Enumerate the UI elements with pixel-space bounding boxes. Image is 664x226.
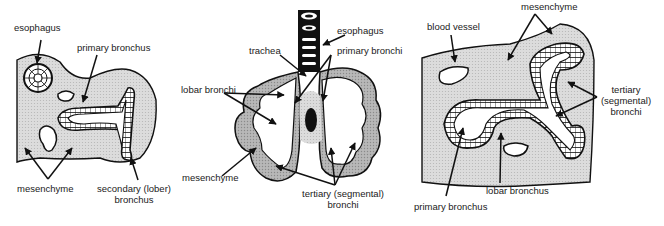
label-secondary-bronchus-line1: secondary (lober) — [96, 183, 172, 194]
label-tertiary-bronchi-line1: tertiary — [598, 84, 654, 95]
label-tertiary-bronchi-line2: bronchi — [300, 199, 386, 210]
label-trachea: trachea — [249, 45, 281, 56]
label-esophagus: esophagus — [337, 25, 383, 36]
label-tertiary-bronchi-line3: bronchi — [598, 106, 654, 117]
esophagus-icon — [24, 64, 52, 92]
label-primary-bronchus: primary bronchus — [414, 201, 487, 212]
blood-vessel-icon — [58, 91, 74, 101]
label-primary-bronchus: primary bronchus — [77, 42, 150, 53]
label-mesenchyme: mesenchyme — [521, 1, 578, 12]
label-mesenchyme: mesenchyme — [182, 172, 239, 183]
label-lobar-bronchi: lobar bronchi — [181, 84, 236, 95]
label-tertiary-bronchi: tertiary (segmental) bronchi — [598, 84, 654, 117]
label-tertiary-bronchi-line1: tertiary (segmental) — [300, 188, 386, 199]
right-panel-drawing — [422, 14, 597, 196]
lung-development-diagram: esophagus primary bronchus mesenchyme se… — [0, 0, 664, 226]
label-mesenchyme: mesenchyme — [17, 183, 74, 194]
label-tertiary-bronchi: tertiary (segmental) bronchi — [300, 188, 386, 210]
label-secondary-bronchus-line2: bronchus — [96, 194, 172, 205]
label-lobar-bronchus: lobar bronchus — [486, 185, 549, 196]
trachea-icon — [298, 10, 320, 72]
label-esophagus: esophagus — [14, 22, 60, 33]
label-primary-bronchi: primary bronchi — [337, 45, 402, 56]
left-panel-drawing — [17, 40, 156, 180]
center-panel-drawing — [222, 10, 381, 185]
label-blood-vessel: blood vessel — [427, 21, 480, 32]
label-secondary-bronchus: secondary (lober) bronchus — [96, 183, 172, 205]
label-tertiary-bronchi-line2: (segmental) — [598, 95, 654, 106]
heart-icon — [305, 108, 317, 132]
